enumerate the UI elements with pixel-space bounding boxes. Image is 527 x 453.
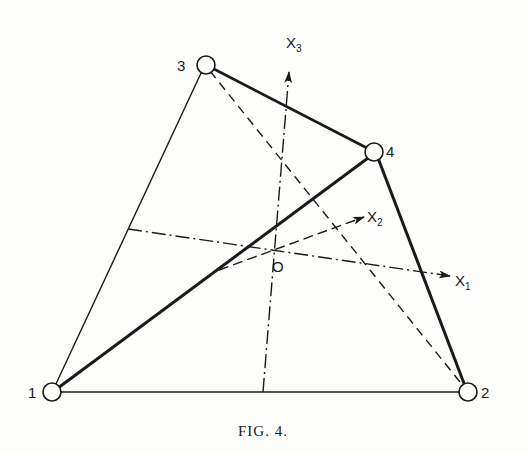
- node-label-1: 1: [28, 384, 36, 401]
- axis-x2: [219, 217, 364, 270]
- node-4: [365, 143, 383, 161]
- axis-label-x2: X2: [367, 208, 383, 228]
- node-label-3: 3: [177, 57, 185, 74]
- node-2: [459, 383, 477, 401]
- node-1: [43, 383, 61, 401]
- node-3: [197, 56, 215, 74]
- axis-label-x1: X1: [455, 272, 471, 292]
- diagram-canvas: 1 2 3 4 O X1 X2 X3 FIG. 4.: [0, 0, 527, 453]
- edge-3-2-dashed: [210, 71, 464, 387]
- axis-label-x3: X3: [286, 34, 302, 54]
- figure-caption: FIG. 4.: [238, 423, 288, 439]
- edge-3-4: [212, 68, 367, 148]
- axis-x1: [128, 229, 450, 276]
- origin-label: O: [272, 258, 284, 275]
- edge-1-4: [58, 158, 368, 388]
- node-label-2: 2: [481, 384, 489, 401]
- tetrahedron-figure: 1 2 3 4 O X1 X2 X3 FIG. 4.: [0, 0, 527, 453]
- node-label-4: 4: [386, 143, 394, 160]
